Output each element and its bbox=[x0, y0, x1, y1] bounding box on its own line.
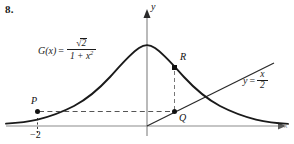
y-axis-arrowhead bbox=[144, 9, 151, 18]
line-equation-equals: = bbox=[249, 75, 255, 86]
curve-equation-denominator-base: 1 + x bbox=[70, 51, 90, 61]
point-P-marker bbox=[35, 109, 40, 114]
point-Q-marker bbox=[172, 109, 177, 114]
curve-equation-denominator-exponent: 2 bbox=[90, 49, 93, 56]
point-R-marker bbox=[172, 65, 177, 70]
line-equation-denominator: 2 bbox=[257, 81, 268, 91]
x-axis-label: x bbox=[284, 121, 288, 130]
y-axis-label: y bbox=[151, 1, 155, 12]
curve-equation-numerator: √2 bbox=[73, 38, 90, 49]
figure-container: 8. P Q R y x −2 G(x) = √2 1 + x2 bbox=[0, 0, 294, 144]
line-equation-lhs: y bbox=[243, 75, 247, 86]
curve-equation-fraction: √2 1 + x2 bbox=[67, 38, 96, 62]
curve-equation-denominator: 1 + x2 bbox=[67, 50, 96, 62]
line-equation-numerator: x bbox=[257, 70, 267, 80]
point-P-label: P bbox=[31, 95, 37, 106]
point-R-label: R bbox=[180, 51, 186, 62]
line-equation-label: y = x 2 bbox=[243, 70, 268, 91]
x-tick-label-neg2: −2 bbox=[30, 129, 41, 140]
line-equation-fraction: x 2 bbox=[257, 70, 268, 91]
curve-equation-equals: = bbox=[58, 45, 64, 56]
point-Q-label: Q bbox=[179, 112, 186, 123]
curve-equation-radicand: 2 bbox=[80, 38, 87, 49]
curve-equation-function-name: G(x) bbox=[38, 45, 56, 56]
curve-equation-label: G(x) = √2 1 + x2 bbox=[38, 38, 96, 62]
